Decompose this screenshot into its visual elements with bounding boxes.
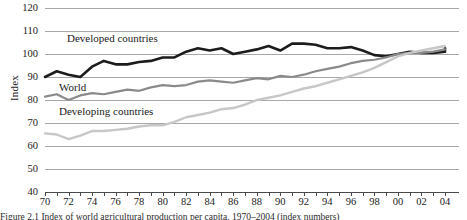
figure-container: Index 120 110 100 90 80 70 60 50 40 7072…	[0, 0, 467, 220]
series-line	[45, 44, 445, 77]
y-tick-label: 60	[10, 141, 38, 152]
y-tick-label: 110	[10, 26, 38, 37]
series-line	[45, 49, 445, 100]
series-annotation-developed: Developed countries	[65, 33, 160, 44]
y-tick-label: 70	[10, 118, 38, 129]
y-tick-label: 40	[10, 187, 38, 198]
y-tick-label: 120	[10, 3, 38, 14]
y-tick-label: 100	[10, 49, 38, 60]
series-annotation-developing: Developing countries	[57, 106, 155, 117]
y-axis-tick-labels: 120 110 100 90 80 70 60 50 40	[8, 0, 38, 220]
y-tick-label: 80	[10, 95, 38, 106]
series-annotation-world: World	[57, 82, 88, 93]
y-tick-label: 50	[10, 164, 38, 175]
y-tick-label: 90	[10, 72, 38, 83]
figure-caption: Figure 2.1 Index of world agricultural p…	[0, 212, 467, 220]
